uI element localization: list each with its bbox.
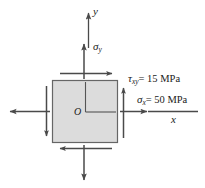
tau-xy-label: τxy= 15 MPa — [128, 73, 180, 85]
tau-xy-value: = 15 MPa — [139, 73, 181, 84]
sigma-y-label: σy — [93, 41, 102, 53]
tau-xy-subscript: xy — [132, 77, 139, 86]
stress-element-figure: y x O σy τxy= 15 MPa σx= 50 MPa — [0, 0, 205, 188]
x-axis-label: x — [171, 114, 176, 125]
y-axis-label: y — [93, 6, 98, 17]
origin-label: O — [74, 107, 81, 117]
sigma-x-value: = 50 MPa — [146, 94, 188, 105]
sigma-x-label: σx= 50 MPa — [137, 94, 187, 106]
sigma-y-subscript: y — [98, 45, 101, 54]
